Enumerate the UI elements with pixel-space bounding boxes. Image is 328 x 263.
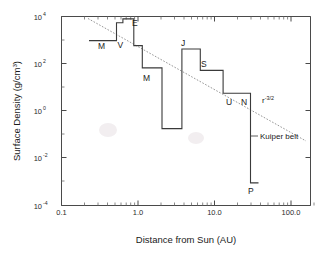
chart-svg: 10 4 10 2 10 0 10 -2 10 -4 — [0, 0, 328, 263]
kuiper-belt-label: Kuiper belt — [260, 132, 299, 141]
y-tick-label: 10 — [34, 107, 42, 116]
surface-density-chart: 10 4 10 2 10 0 10 -2 10 -4 — [0, 0, 328, 263]
y-tick-label: 10 — [34, 13, 42, 22]
kuiper-belt-annotation: Kuiper belt — [251, 132, 300, 141]
y-axis-title-end: ) — [11, 61, 22, 64]
x-tick-label: 10.0 — [207, 208, 222, 217]
label-saturn: S — [201, 59, 207, 69]
label-earth: E — [132, 18, 138, 28]
y-tick-exp: -2 — [43, 152, 48, 158]
y-tick-exp: 2 — [43, 58, 46, 64]
surface-density-step-curve — [89, 19, 259, 183]
planet-labels: M V E M J S U N P — [98, 18, 254, 196]
x-tick-labels: 0.1 1.0 10.0 100.0 — [56, 208, 300, 217]
svg-text:r-3/2: r-3/2 — [262, 95, 274, 105]
x-axis-title: Distance from Sun (AU) — [136, 234, 236, 245]
label-uranus: U — [226, 97, 232, 107]
y-axis-title: Surface Density (g/cm — [11, 68, 22, 162]
watermark — [99, 123, 204, 144]
svg-text:Surface Density (g/cm3): Surface Density (g/cm3) — [11, 61, 23, 161]
x-tick-label: 1.0 — [133, 208, 143, 217]
power-law-reference-line — [88, 19, 306, 142]
y-tick-exp: -4 — [43, 200, 48, 206]
y-tick-exp: 0 — [43, 105, 46, 111]
label-mars: M — [143, 73, 150, 83]
label-pluto: P — [248, 186, 254, 196]
y-tick-label: 10 — [34, 60, 42, 69]
y-tick-exp: 4 — [43, 11, 46, 17]
y-tick-label: 10 — [34, 154, 42, 163]
label-neptune: N — [241, 97, 247, 107]
label-mercury: M — [98, 41, 105, 51]
x-tick-label: 0.1 — [56, 208, 66, 217]
label-venus: V — [118, 40, 124, 50]
power-law-annotation: r-3/2 — [262, 95, 274, 105]
power-law-exponent: -3/2 — [265, 95, 274, 101]
y-tick-label: 10 — [34, 202, 42, 211]
y-tick-labels: 10 4 10 2 10 0 10 -2 10 -4 — [34, 11, 48, 211]
x-tick-label: 100.0 — [282, 208, 301, 217]
label-jupiter: J — [181, 38, 185, 48]
y-axis-title-group: Surface Density (g/cm3) — [11, 61, 23, 161]
